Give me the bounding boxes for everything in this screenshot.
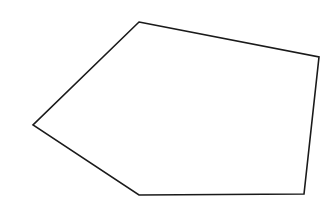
- pentagon-diagram: [0, 0, 335, 216]
- pentagon-shape: [33, 22, 319, 195]
- diagram-canvas: [0, 0, 335, 216]
